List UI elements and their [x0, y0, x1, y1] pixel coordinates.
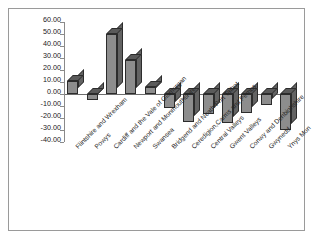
y-axis-tick-mark	[60, 118, 64, 119]
y-axis-tick-label: 10.00	[23, 76, 61, 83]
bar-side-face	[214, 82, 220, 108]
bar-column[interactable]	[261, 22, 278, 142]
y-axis-tick-label: 50.00	[23, 28, 61, 35]
y-axis-tick-labels: 60.0050.0040.0030.0020.0010.000.00-10.00…	[23, 19, 61, 144]
bar-column[interactable]	[241, 22, 258, 142]
bar-front-face	[125, 60, 136, 94]
y-axis-tick-mark	[60, 34, 64, 35]
bar-column[interactable]	[125, 22, 142, 142]
bar-column[interactable]	[222, 22, 239, 142]
y-axis-tick-label: 60.00	[23, 16, 61, 23]
y-axis-tick-mark	[60, 58, 64, 59]
plot-area	[65, 22, 297, 142]
bar-front-face	[106, 34, 117, 94]
bar-column[interactable]	[280, 22, 297, 142]
y-axis-tick-mark	[60, 130, 64, 131]
y-axis-tick-mark	[60, 46, 64, 47]
y-axis-tick-label: -20.00	[23, 112, 61, 119]
y-axis-tick-label: 40.00	[23, 40, 61, 47]
y-axis-tick-mark	[60, 70, 64, 71]
bar-column[interactable]	[203, 22, 220, 142]
bar-front-face	[222, 94, 233, 123]
bar-front-face	[145, 87, 156, 94]
bar-front-face	[261, 94, 272, 105]
bar-column[interactable]	[164, 22, 181, 142]
y-axis-tick-label: 0.00	[23, 88, 61, 95]
bar-front-face	[164, 94, 175, 108]
chart-plot-wrapper: 60.0050.0040.0030.0020.0010.000.00-10.00…	[9, 9, 306, 232]
bar-column[interactable]	[106, 22, 123, 142]
y-axis-tick-mark	[60, 82, 64, 83]
y-axis-tick-mark	[60, 142, 64, 143]
bar-front-face	[183, 94, 194, 122]
bar-side-face	[252, 82, 258, 107]
bar-front-face	[87, 94, 98, 100]
bar-front-face	[241, 94, 252, 113]
chart-frame: 60.0050.0040.0030.0020.0010.000.00-10.00…	[8, 8, 305, 231]
bar-front-face	[280, 94, 291, 130]
y-axis-tick-label: -30.00	[23, 124, 61, 131]
y-axis-tick-label: 30.00	[23, 52, 61, 59]
bar-column[interactable]	[67, 22, 84, 142]
bar-column[interactable]	[87, 22, 104, 142]
y-axis-tick-mark	[60, 106, 64, 107]
y-axis-tick-mark	[60, 22, 64, 23]
bar-front-face	[203, 94, 214, 114]
bar-column[interactable]	[183, 22, 200, 142]
bar-front-face	[67, 81, 78, 94]
y-axis-tick-label: -40.00	[23, 136, 61, 143]
bar-column[interactable]	[145, 22, 162, 142]
y-axis-tick-label: 20.00	[23, 64, 61, 71]
y-axis-tick-mark	[60, 94, 64, 95]
y-axis-tick-label: -10.00	[23, 100, 61, 107]
